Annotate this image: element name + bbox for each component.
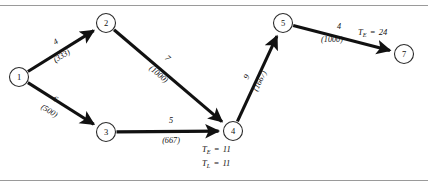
time-labels-layer: TE=11TL=11TE=24 [202,27,388,169]
edge-cost-1-3: (500) [39,102,59,119]
edge-duration-2-4: 7 [163,53,173,63]
node-label-1: 1 [17,72,21,82]
time-label-node4-tl: TL=11 [202,158,230,169]
edge-arrow-3-to-4 [116,131,218,132]
network-diagram: 123457 4(333)6(500)7(1000)5(667)9(1667)4… [0,0,428,187]
node-label-7: 7 [402,49,406,59]
figure-container: 123457 4(333)6(500)7(1000)5(667)9(1667)4… [0,0,428,187]
edge-cost-4-5: (1667) [251,69,269,93]
edge-arrow-1-to-3 [28,83,94,125]
edge-cost-5-7: (1000) [321,35,343,44]
time-value: 11 [223,144,231,154]
node-5[interactable]: 5 [274,14,293,33]
node-2[interactable]: 2 [97,14,116,33]
node-7[interactable]: 7 [395,45,414,64]
time-subscript: E [206,148,211,155]
node-3[interactable]: 3 [97,123,116,142]
edge-duration-1-2: 4 [52,37,60,47]
time-subscript: L [206,162,211,169]
time-value: 24 [379,27,388,37]
edge-cost-3-4: (667) [162,136,180,145]
node-label-2: 2 [104,18,108,28]
time-equals: = [213,158,219,168]
edge-duration-4-5: 9 [242,73,252,81]
time-value: 11 [222,158,230,168]
edge-labels-layer: 4(333)6(500)7(1000)5(667)9(1667)4(1000) [39,22,343,145]
node-label-5: 5 [281,18,285,28]
node-1[interactable]: 1 [10,68,29,87]
node-4[interactable]: 4 [224,122,243,141]
time-equals: = [214,144,220,154]
time-subscript: E [362,31,367,38]
edge-duration-5-7: 4 [337,22,341,31]
time-label-node4-te: TE=11 [202,144,231,155]
nodes-layer: 123457 [10,14,414,142]
time-equals: = [370,27,376,37]
node-label-3: 3 [104,127,108,137]
edge-duration-3-4: 5 [169,116,173,125]
edge-cost-1-2: (333) [52,47,72,64]
time-label-node7-te: TE=24 [358,27,388,38]
